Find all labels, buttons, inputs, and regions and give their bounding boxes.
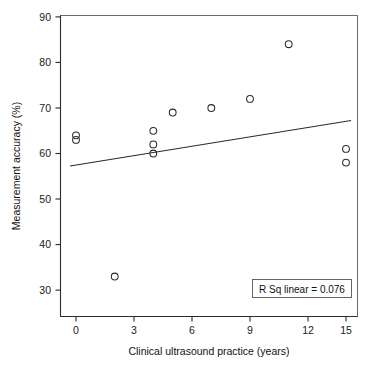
- x-tick-label-3: 3: [131, 324, 137, 336]
- y-axis-title: Measurement accuracy (%): [10, 102, 22, 230]
- x-tick-label-9: 9: [247, 324, 253, 336]
- y-tick-label-80: 80: [39, 56, 51, 68]
- y-tick-label-60: 60: [39, 147, 51, 159]
- x-axis-title: Clinical ultrasound practice (years): [128, 345, 289, 357]
- r-squared-annotation: R Sq linear = 0.076: [253, 280, 352, 298]
- x-tick-label-6: 6: [189, 324, 195, 336]
- x-tick-label-12: 12: [302, 324, 314, 336]
- y-tick-label-90: 90: [39, 11, 51, 23]
- y-tick-label-50: 50: [39, 193, 51, 205]
- x-tick-label-15: 15: [340, 324, 352, 336]
- scatter-chart: 30 40 50 60 70 80 90 0 3 6 9 12: [0, 0, 377, 373]
- y-tick-label-70: 70: [39, 102, 51, 114]
- chart-canvas: 30 40 50 60 70 80 90 0 3 6 9 12: [0, 0, 377, 373]
- y-tick-label-30: 30: [39, 284, 51, 296]
- y-tick-label-40: 40: [39, 238, 51, 250]
- x-tick-label-0: 0: [73, 324, 79, 336]
- r-squared-text: R Sq linear = 0.076: [259, 284, 345, 295]
